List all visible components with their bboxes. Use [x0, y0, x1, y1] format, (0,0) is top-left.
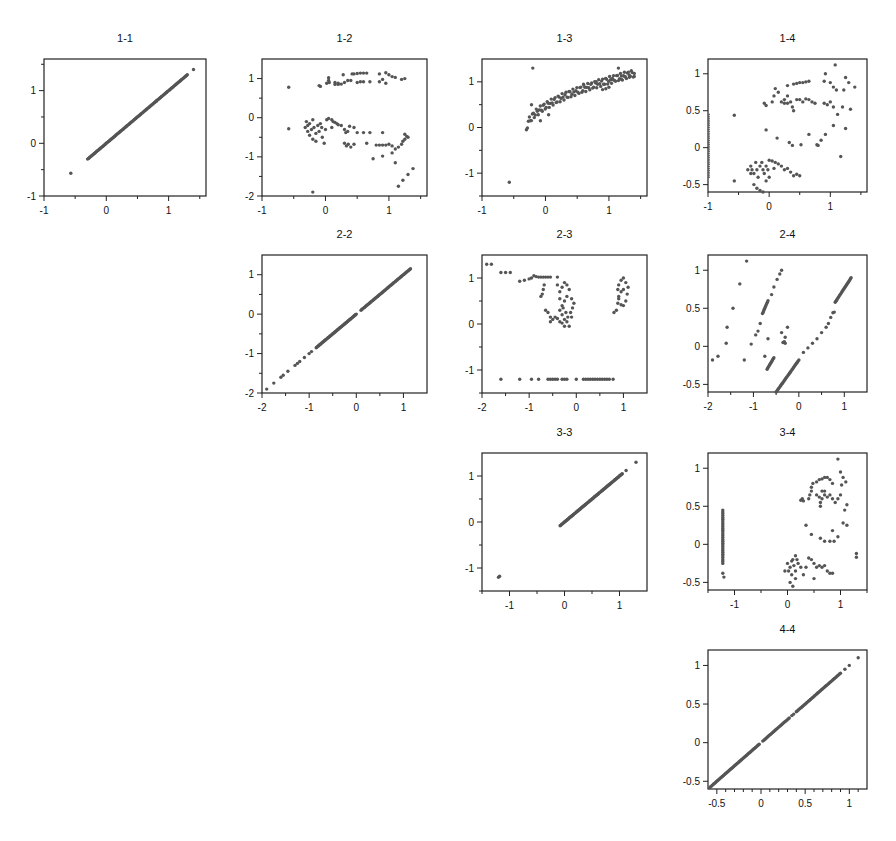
panel-title: 2-3 [557, 228, 573, 240]
x-tick-label: -1 [749, 401, 758, 412]
scatter-panel-1-2: 1-2-101-2-101 [245, 32, 427, 216]
y-tick-label: 1 [468, 273, 474, 284]
y-tick-label: -1 [465, 168, 474, 179]
data-points [508, 66, 636, 184]
scatter-panel-3-3: 3-3-101-101 [465, 426, 647, 611]
y-tick-label: -0.5 [683, 577, 701, 588]
panel-title: 1-4 [780, 32, 796, 44]
y-tick-label: -2 [245, 388, 254, 399]
data-points [265, 267, 412, 391]
y-tick-label: 1 [248, 73, 254, 84]
data-points [721, 457, 858, 588]
x-tick-label: 1 [828, 201, 834, 212]
y-tick-label: -1 [465, 563, 474, 574]
x-tick-label: -1 [40, 205, 49, 216]
x-axis: -101 [40, 196, 200, 216]
x-tick-label: -1 [305, 402, 314, 413]
panel-title: 2-4 [780, 228, 796, 240]
x-tick-label: -2 [704, 401, 713, 412]
y-tick-label: 0 [694, 142, 700, 153]
plot-frame [708, 59, 867, 192]
y-tick-label: 0 [248, 112, 254, 123]
panel-title: 3-3 [557, 426, 573, 438]
x-tick-label: 1 [842, 401, 848, 412]
scatter-matrix-figure: 1-1-101-1011-2-101-2-1011-3-101-1011-4-1… [0, 0, 896, 841]
x-axis: -101 [704, 192, 861, 212]
y-tick-label: 0 [468, 122, 474, 133]
panel-title: 2-2 [337, 228, 353, 240]
x-tick-label: 1 [166, 205, 172, 216]
x-tick-label: -2 [478, 402, 487, 413]
panel-title: 1-1 [117, 32, 133, 44]
y-axis: -101 [465, 76, 482, 196]
y-tick-label: 0 [468, 517, 474, 528]
plot-frame [482, 255, 647, 393]
y-tick-label: 1 [694, 660, 700, 671]
x-tick-label: 0 [543, 205, 549, 216]
y-tick-label: 0.5 [686, 105, 700, 116]
data-points [497, 461, 638, 579]
y-tick-label: 1 [468, 76, 474, 87]
x-tick-label: 1 [847, 798, 853, 809]
y-axis: -101 [27, 64, 44, 201]
scatter-panel-2-2: 2-2-2-101-2-101 [245, 228, 427, 413]
x-tick-label: 1 [386, 205, 392, 216]
data-points [708, 63, 856, 194]
x-tick-label: 0 [104, 205, 110, 216]
x-tick-label: -1 [478, 205, 487, 216]
panel-title: 4-4 [780, 623, 796, 635]
x-tick-label: 0 [323, 205, 329, 216]
x-tick-label: 1 [621, 402, 627, 413]
data-points [711, 259, 853, 393]
y-axis: -0.500.51 [683, 463, 708, 588]
y-tick-label: 0.5 [686, 303, 700, 314]
scatter-panel-1-1: 1-1-101-101 [27, 32, 206, 216]
y-tick-label: 0 [694, 539, 700, 550]
y-tick-label: -1 [245, 348, 254, 359]
x-tick-label: 0 [758, 798, 764, 809]
y-tick-label: 0 [468, 319, 474, 330]
data-points [485, 263, 630, 381]
scatter-panel-3-4: 3-4-101-0.500.51 [683, 426, 867, 610]
x-tick-label: -1 [704, 201, 713, 212]
x-tick-label: 1 [401, 402, 407, 413]
panel-title: 3-4 [780, 426, 796, 438]
y-tick-label: -0.5 [683, 179, 701, 190]
data-points [287, 71, 415, 194]
scatter-panel-2-4: 2-4-2-101-0.500.51 [683, 228, 867, 412]
x-axis: -101 [708, 590, 867, 610]
x-tick-label: 0 [354, 402, 360, 413]
y-axis: -0.500.51 [683, 68, 708, 190]
y-tick-label: 1 [30, 85, 36, 96]
y-axis: -101 [465, 273, 482, 394]
panel-title: 1-3 [557, 32, 573, 44]
x-axis: -2-101 [258, 393, 407, 413]
y-tick-label: 1 [694, 265, 700, 276]
x-axis: -101 [482, 591, 623, 611]
x-tick-label: -2 [258, 402, 267, 413]
y-tick-label: -0.5 [683, 379, 701, 390]
data-points [69, 68, 195, 175]
y-tick-label: -0.5 [683, 776, 701, 787]
y-axis: -0.500.51 [683, 660, 708, 787]
scatter-panel-4-4: 4-4-0.500.51-0.500.51 [683, 623, 867, 809]
x-axis: -2-101 [478, 393, 627, 413]
x-tick-label: 1 [606, 205, 612, 216]
x-axis: -101 [258, 196, 421, 216]
y-tick-label: 1 [694, 68, 700, 79]
x-tick-label: 1 [838, 599, 844, 610]
x-axis: -101 [478, 196, 641, 216]
scatter-panel-2-3: 2-3-2-101-101 [465, 228, 647, 413]
y-tick-label: 0 [30, 138, 36, 149]
y-tick-label: 0.5 [686, 699, 700, 710]
x-tick-label: 1 [617, 600, 623, 611]
y-axis: -101 [465, 471, 482, 592]
y-tick-label: 0 [694, 737, 700, 748]
plot-frame [708, 255, 867, 392]
scatter-panel-1-3: 1-3-101-101 [465, 32, 647, 216]
x-tick-label: -1 [525, 402, 534, 413]
y-axis: -2-101 [245, 269, 262, 398]
y-tick-label: -2 [245, 191, 254, 202]
y-tick-label: 0 [248, 309, 254, 320]
data-points [708, 656, 860, 789]
